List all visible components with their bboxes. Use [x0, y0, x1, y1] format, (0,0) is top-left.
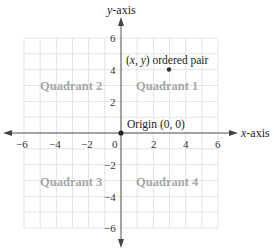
quadrant-2-label: Quadrant 2	[40, 80, 102, 93]
origin-label: Origin (0, 0)	[126, 119, 186, 131]
x-tick-neg4: −4	[49, 139, 61, 150]
quadrant-4-label: Quadrant 4	[136, 176, 198, 189]
y-tick-neg4: −4	[104, 192, 116, 203]
x-axis-title: x-axis	[241, 127, 270, 139]
y-tick-neg6: −6	[104, 223, 116, 234]
x-tick-neg2: −2	[81, 139, 93, 150]
x-axis-left-arrow-icon	[3, 130, 12, 136]
y-tick-6: 6	[110, 33, 116, 44]
x-tick-2: 2	[151, 139, 157, 150]
x-tick-4: 4	[183, 139, 189, 150]
x-axis-rest: -axis	[246, 126, 269, 140]
y-axis-title: y-axis	[107, 4, 136, 16]
y-axis-down-arrow-icon	[118, 239, 124, 248]
x-axis-right-arrow-icon	[229, 130, 238, 136]
ordered-pair-label: (x, y) ordered pair	[126, 55, 208, 67]
y-tick-4: 4	[110, 65, 116, 76]
x-tick-0: 0	[112, 139, 118, 150]
ordered-pair-rest: ) ordered pair	[146, 54, 209, 66]
y-axis-rest: -axis	[112, 3, 135, 17]
origin-point	[118, 130, 123, 135]
x-tick-6: 6	[215, 139, 221, 150]
quadrant-1-label: Quadrant 1	[136, 80, 198, 93]
quadrant-3-label: Quadrant 3	[40, 176, 102, 189]
ordered-pair-point	[167, 67, 171, 71]
x-tick-neg6: −6	[16, 139, 28, 150]
y-axis-up-arrow-icon	[118, 17, 124, 26]
y-tick-neg2: −2	[104, 160, 116, 171]
y-tick-2: 2	[110, 97, 116, 108]
